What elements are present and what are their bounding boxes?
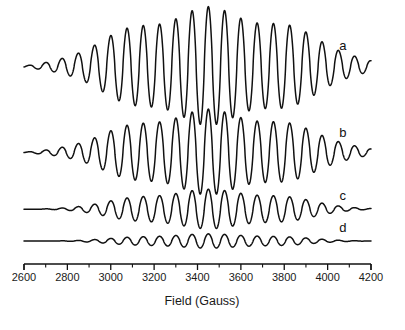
x-axis-title: Field (Gauss) bbox=[164, 294, 239, 308]
x-axis-tick-label: 2600 bbox=[12, 271, 36, 283]
spectrum-trace-c bbox=[24, 189, 371, 228]
trace-label-d: d bbox=[339, 220, 346, 235]
trace-label-c: c bbox=[340, 188, 347, 203]
x-axis-tick-label: 2800 bbox=[55, 271, 79, 283]
x-axis-tick-label: 3000 bbox=[99, 271, 123, 283]
spectrum-trace-d bbox=[24, 234, 371, 248]
spectrum-trace-b bbox=[24, 109, 371, 194]
trace-label-b: b bbox=[339, 125, 346, 140]
chart-canvas: 260028003000320034003600380040004200 abc… bbox=[0, 0, 405, 330]
spectra-traces bbox=[24, 7, 371, 248]
spectrum-trace-a bbox=[24, 7, 371, 125]
x-axis-tick-label: 3800 bbox=[272, 271, 296, 283]
x-axis-tick-label: 4200 bbox=[359, 271, 383, 283]
epr-spectra-figure: 260028003000320034003600380040004200 abc… bbox=[0, 0, 405, 330]
x-axis-tick-label: 4000 bbox=[315, 271, 339, 283]
trace-label-a: a bbox=[339, 38, 347, 53]
x-axis bbox=[24, 264, 371, 270]
x-axis-tick-label: 3200 bbox=[142, 271, 166, 283]
x-axis-tick-label: 3600 bbox=[229, 271, 253, 283]
x-axis-tick-labels: 260028003000320034003600380040004200 bbox=[12, 271, 383, 283]
x-axis-tick-label: 3400 bbox=[185, 271, 209, 283]
